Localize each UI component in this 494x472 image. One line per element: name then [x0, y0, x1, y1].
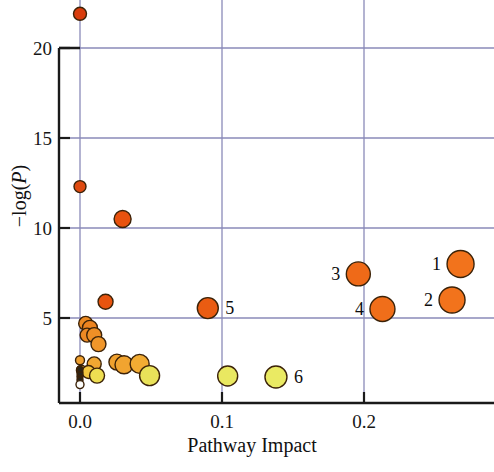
- scatter-point: [114, 211, 131, 228]
- scatter-point: [265, 366, 287, 388]
- vertical-gridlines: [80, 0, 364, 403]
- x-axis-title: Pathway Impact: [187, 434, 317, 457]
- scatter-point: [76, 356, 85, 365]
- x-tick-label: 0.2: [352, 411, 376, 432]
- x-tick-label: 0.1: [210, 411, 234, 432]
- scatter-point: [74, 7, 87, 20]
- x-tick-label: 0.0: [68, 411, 92, 432]
- y-axis-title-prefix: −log(: [8, 183, 31, 227]
- x-axis-tick-labels: 0.00.10.2: [68, 411, 376, 432]
- scatter-point: [76, 381, 84, 389]
- scatter-point: [218, 366, 238, 386]
- horizontal-gridlines: [59, 48, 494, 318]
- y-axis-title: −log(P): [8, 165, 31, 227]
- data-point-labels: 534126: [225, 254, 441, 387]
- scatter-point: [447, 251, 474, 278]
- x-axis-tick-marks: [80, 392, 364, 403]
- y-axis-title-variable: P: [8, 171, 30, 184]
- scatter-point: [91, 337, 106, 352]
- scatter-point-label: 5: [225, 298, 234, 318]
- scatter-point: [98, 294, 113, 309]
- scatter-point: [90, 368, 105, 383]
- y-axis-title-suffix: ): [8, 165, 31, 172]
- y-tick-label: 5: [43, 308, 53, 329]
- scatter-point-label: 1: [432, 254, 441, 274]
- scatter-point-label: 3: [331, 264, 340, 284]
- scatter-point: [74, 181, 86, 193]
- scatter-point: [370, 297, 395, 322]
- scatter-point: [77, 366, 83, 372]
- y-tick-label: 20: [33, 38, 52, 59]
- y-axis-tick-marks: [59, 48, 70, 318]
- scatter-point: [346, 262, 370, 286]
- data-point-markers: [74, 7, 475, 388]
- chart-canvas: 5101520 0.00.10.2 534126 Pathway Impact …: [0, 0, 494, 472]
- scatter-point-label: 2: [424, 290, 433, 310]
- y-axis-tick-labels: 5101520: [33, 38, 52, 329]
- scatter-point: [439, 287, 465, 313]
- y-tick-label: 10: [33, 218, 52, 239]
- scatter-point-label: 4: [355, 299, 364, 319]
- scatter-point: [140, 366, 160, 386]
- scatter-plot-figure: 5101520 0.00.10.2 534126 Pathway Impact …: [0, 0, 494, 472]
- scatter-point: [197, 298, 218, 319]
- scatter-point-label: 6: [294, 367, 303, 387]
- y-tick-label: 15: [33, 128, 52, 149]
